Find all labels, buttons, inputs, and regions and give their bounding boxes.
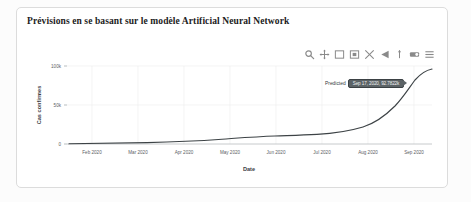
hover-value-label: Sep 17, 2020, 92.7822k: [353, 81, 400, 86]
x-tick-label: Jul 2020: [313, 150, 331, 155]
x-tick-label: Sep 2020: [404, 150, 424, 155]
hover-arrow-icon: [403, 80, 407, 86]
box-select-icon[interactable]: [334, 49, 345, 60]
x-tick-label: Mar 2020: [128, 150, 148, 155]
pan-icon[interactable]: [319, 49, 330, 60]
y-tick-marks: [64, 66, 67, 144]
toggle-spike-lines-icon[interactable]: [409, 49, 420, 60]
hover-series-label: Predicted: [325, 81, 346, 86]
y-tick-label: 100k: [51, 64, 62, 69]
zoom-icon[interactable]: [304, 49, 315, 60]
hover-value-box: Sep 17, 2020, 92.7822k: [348, 79, 405, 88]
x-tick-label: Jun 2020: [267, 150, 286, 155]
autoscale-icon[interactable]: [394, 49, 405, 60]
y-axis-title: Cas confirmes: [36, 86, 42, 125]
zoom-in-icon[interactable]: [364, 49, 375, 60]
forecast-chart-card: Prévisions en se basant sur le modèle Ar…: [16, 7, 448, 188]
zoom-out-icon[interactable]: [379, 49, 390, 60]
x-tick-label: Aug 2020: [358, 150, 378, 155]
lasso-select-icon[interactable]: [349, 49, 360, 60]
plotly-chart[interactable]: 100k 50k 0 Cas confirmes Feb 2020 Mar 20…: [17, 8, 449, 189]
y-tick-label: 0: [58, 142, 61, 147]
y-tick-label: 50k: [54, 103, 62, 108]
x-tick-label: Apr 2020: [175, 150, 194, 155]
screenshot-root: Prévisions en se basant sur le modèle Ar…: [0, 0, 471, 202]
x-tick-label: Feb 2020: [82, 150, 102, 155]
plotly-modebar[interactable]: [304, 47, 435, 61]
x-tick-label: May 2020: [220, 150, 241, 155]
hover-compare-icon[interactable]: [424, 49, 435, 60]
x-axis-title: Date: [243, 166, 255, 172]
hover-tooltip: Predicted Sep 17, 2020, 92.7822k: [325, 77, 404, 89]
